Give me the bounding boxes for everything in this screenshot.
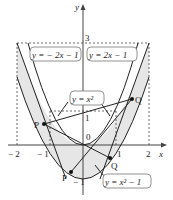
- y-axis-label: y: [74, 2, 79, 12]
- curve-label: y = − 2x − 1: [31, 50, 78, 60]
- curve-label: y = 2x − 1: [88, 50, 127, 60]
- curve-label: y = x²: [71, 94, 94, 104]
- origin-label: 0: [86, 132, 91, 142]
- x-axis-arrow-icon: [161, 143, 167, 148]
- y-tick: 3: [85, 33, 90, 43]
- diagram: y = − 2x − 1 y = 2x − 1 y = x² y = x² − …: [0, 0, 173, 200]
- leader-x2: [58, 102, 68, 116]
- x-axis-label: x: [158, 149, 163, 159]
- x-tick: 1: [117, 149, 122, 159]
- x-tick: − 1: [37, 149, 49, 159]
- y-axis-arrow-icon: [81, 4, 86, 10]
- x-tick: 2: [146, 149, 151, 159]
- point-label: Q: [135, 95, 142, 105]
- point-label: Q: [111, 161, 118, 171]
- y-tick: 1: [85, 113, 90, 123]
- point-label: P: [34, 120, 39, 130]
- curve-label: y = x² − 1: [104, 177, 141, 187]
- point-label: P: [62, 173, 67, 183]
- x-tick: − 2: [8, 149, 20, 159]
- y-tick: − 1: [73, 177, 85, 187]
